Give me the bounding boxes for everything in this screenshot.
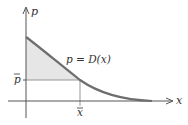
consumer-surplus-diagram: p x p = D(x) p x: [0, 0, 188, 125]
curve-label: p = D(x): [66, 53, 111, 65]
x-axis-label: x: [176, 94, 183, 107]
y-axis-label: p: [31, 5, 38, 18]
p-bar-label: p: [14, 73, 21, 85]
